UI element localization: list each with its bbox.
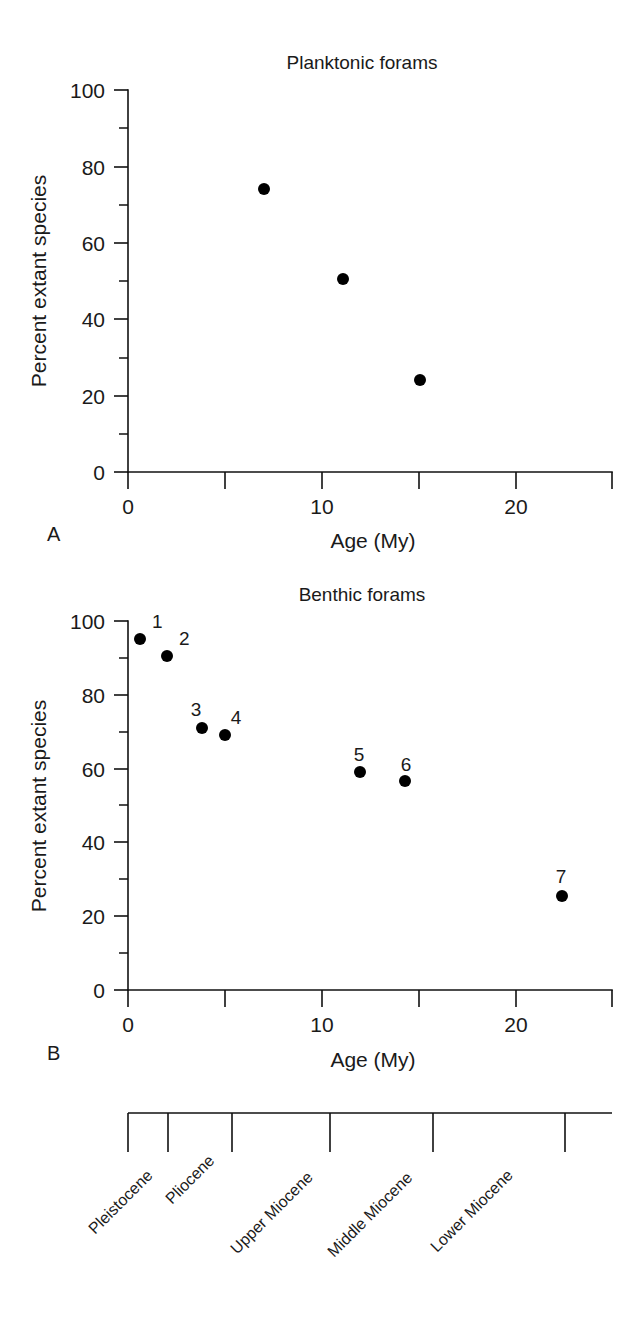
datapoint	[399, 775, 411, 787]
timescale-epoch-labels: Pleistocene Pliocene Upper Miocene Middl…	[85, 1152, 516, 1260]
datapoint	[196, 722, 208, 734]
panel-b-point-labels: 1 2 3 4 5 6 7	[152, 611, 566, 887]
epoch-label-upper-miocene: Upper Miocene	[227, 1168, 316, 1257]
panel-a-x-ticklabels: 0 10 20	[122, 495, 528, 518]
epoch-label-middle-miocene: Middle Miocene	[324, 1169, 415, 1260]
panel-b-x-ticks	[128, 990, 612, 1007]
panel-a-ytick-20: 20	[82, 385, 105, 408]
panel-b-ytick-60: 60	[82, 758, 105, 781]
panel-a-y-minor-ticks	[119, 128, 128, 434]
panel-b-y-axis-label: Percent extant species	[27, 700, 50, 912]
panel-a-ytick-80: 80	[82, 156, 105, 179]
point-label: 4	[231, 707, 242, 728]
timescale: Pleistocene Pliocene Upper Miocene Middl…	[85, 1113, 612, 1260]
panel-b-datapoints	[134, 633, 568, 902]
panel-a-ytick-0: 0	[93, 461, 105, 484]
panel-a-xtick-0: 0	[122, 495, 134, 518]
point-label: 7	[556, 866, 567, 887]
figure-root: Planktonic forams	[0, 0, 639, 1338]
panel-b-ytick-0: 0	[93, 979, 105, 1002]
panel-b: Benthic forams 100 80 60	[27, 584, 612, 1071]
point-label: 6	[401, 754, 412, 775]
panel-b-xtick-0: 0	[122, 1013, 134, 1036]
panel-a: Planktonic forams	[27, 52, 612, 552]
panel-b-title: Benthic forams	[299, 584, 426, 605]
panel-b-y-minor-ticks	[119, 658, 128, 953]
panel-a-ytick-40: 40	[82, 308, 105, 331]
panel-a-y-ticklabels: 100 80 60 40 20 0	[70, 79, 105, 484]
panel-a-y-axis-label: Percent extant species	[27, 175, 50, 387]
epoch-label-pliocene: Pliocene	[162, 1152, 217, 1207]
figure-svg: Planktonic forams	[0, 0, 639, 1338]
datapoint	[556, 890, 568, 902]
panel-a-datapoints	[258, 183, 426, 386]
panel-a-x-ticks	[128, 472, 612, 489]
epoch-label-lower-miocene: Lower Miocene	[427, 1166, 516, 1255]
panel-a-x-axis-label: Age (My)	[330, 529, 415, 552]
point-label: 5	[354, 744, 365, 765]
panel-b-ytick-20: 20	[82, 905, 105, 928]
point-label: 3	[191, 699, 202, 720]
datapoint	[161, 650, 173, 662]
panel-a-title: Planktonic forams	[286, 52, 437, 73]
datapoint	[258, 183, 270, 195]
timescale-boundary-ticks	[128, 1113, 565, 1152]
panel-b-letter: B	[47, 1042, 60, 1064]
point-label: 1	[152, 611, 163, 632]
panel-a-xtick-10: 10	[310, 495, 333, 518]
point-label: 2	[179, 628, 190, 649]
panel-b-ytick-80: 80	[82, 684, 105, 707]
datapoint	[219, 729, 231, 741]
datapoint	[337, 273, 349, 285]
panel-b-ytick-40: 40	[82, 831, 105, 854]
panel-b-x-axis-label: Age (My)	[330, 1048, 415, 1071]
panel-a-ytick-60: 60	[82, 232, 105, 255]
datapoint	[134, 633, 146, 645]
panel-b-xtick-10: 10	[310, 1013, 333, 1036]
panel-b-x-ticklabels: 0 10 20	[122, 1013, 528, 1036]
panel-a-letter: A	[47, 523, 61, 545]
panel-a-ytick-100: 100	[70, 79, 105, 102]
panel-a-xtick-20: 20	[504, 495, 527, 518]
epoch-label-pleistocene: Pleistocene	[85, 1167, 156, 1238]
panel-b-xtick-20: 20	[504, 1013, 527, 1036]
datapoint	[414, 374, 426, 386]
panel-b-y-ticklabels: 100 80 60 40 20 0	[70, 610, 105, 1002]
datapoint	[354, 766, 366, 778]
panel-b-ytick-100: 100	[70, 610, 105, 633]
